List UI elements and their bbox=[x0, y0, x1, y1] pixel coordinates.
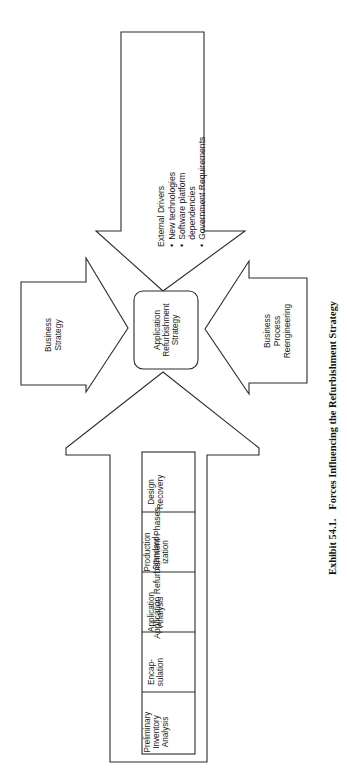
caption-number: Exhibit 54.1. bbox=[327, 519, 338, 575]
phase-4-line1: Production bbox=[143, 532, 152, 571]
phase-3-line2: Analysis bbox=[156, 597, 165, 628]
business-process-reengineering-label: Business Process Reengineering bbox=[238, 300, 316, 362]
phase-5-line1: Design bbox=[147, 479, 156, 505]
center-box-line1: Application bbox=[153, 310, 162, 350]
business-strategy-label: Business Strategy bbox=[22, 306, 84, 364]
phase-4-line3: ization bbox=[161, 540, 170, 564]
business-strategy-line1: Business bbox=[43, 318, 53, 352]
external-drivers-item-line1: New technologies bbox=[167, 172, 177, 240]
phase-1-line3: Analysis bbox=[161, 717, 170, 748]
phase-cell-5: Design Recovery bbox=[126, 468, 186, 516]
phase-5-line2: Recovery bbox=[156, 475, 165, 510]
bpr-line1: Business bbox=[262, 314, 272, 348]
phase-3-line1: Application bbox=[147, 592, 156, 632]
phase-2-line2: sulation bbox=[156, 658, 165, 686]
external-drivers-item: • Software platform dependencies bbox=[177, 172, 197, 247]
phase-cell-2: Encap- sulation bbox=[126, 648, 186, 696]
phase-1-line2: Inventory bbox=[152, 715, 161, 749]
phase-2-line1: Encap- bbox=[147, 659, 156, 685]
phase-cell-4: Production Standard- ization bbox=[126, 528, 186, 576]
external-drivers-item-line1: Software platform bbox=[177, 172, 187, 239]
figure-caption: Exhibit 54.1. Forces Influencing the Ref… bbox=[182, 416, 347, 434]
phase-cell-3: Application Analysis bbox=[126, 588, 186, 636]
figure-canvas: External Drivers • New technologies • So… bbox=[0, 0, 347, 779]
external-drivers-item: • Government Requirements bbox=[197, 137, 207, 247]
center-box-label: Application Refurbishment Strategy bbox=[121, 297, 211, 363]
bpr-line2: Process bbox=[272, 316, 282, 346]
external-drivers-item-line1: Government Requirements bbox=[197, 137, 207, 240]
bullet-icon: • bbox=[178, 244, 187, 247]
phase-1-line1: Preliminary bbox=[143, 712, 152, 753]
center-box-line2: Refurbishment bbox=[162, 303, 171, 356]
center-box-line3: Strategy bbox=[171, 315, 180, 346]
phase-cell-1: Preliminary Inventory Analysis bbox=[126, 708, 186, 756]
business-strategy-line2: Strategy bbox=[53, 319, 63, 350]
external-drivers-item: • New technologies bbox=[167, 172, 177, 247]
bullet-icon: • bbox=[168, 244, 177, 247]
external-drivers-heading: External Drivers bbox=[156, 186, 166, 247]
phase-4-line2: Standard- bbox=[152, 534, 161, 570]
bullet-icon: • bbox=[198, 244, 207, 247]
caption-title: Forces Influencing the Refurbishment Str… bbox=[327, 301, 338, 510]
external-drivers-block: External Drivers • New technologies • So… bbox=[115, 118, 285, 206]
bpr-line3: Reengineering bbox=[282, 304, 292, 358]
external-drivers-item-line2: dependencies bbox=[187, 172, 197, 239]
